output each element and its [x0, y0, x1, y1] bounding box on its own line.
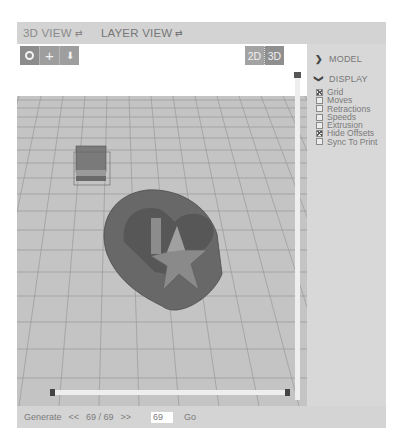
move-slider-end-handle[interactable]: [285, 389, 290, 396]
3d-button[interactable]: 3D: [264, 46, 284, 65]
layer-number-input[interactable]: [151, 412, 173, 423]
view-tabbar: 3D VIEW ⇄ LAYER VIEW ⇄: [17, 22, 386, 44]
zoom-down-icon: ⬇: [66, 50, 74, 61]
2d-button[interactable]: 2D: [245, 46, 264, 65]
layer-navigation-bar: Generate << 69 / 69 >> Go: [17, 406, 386, 428]
swap-icon: ⇄: [75, 28, 83, 38]
tab-label: LAYER VIEW: [101, 27, 172, 39]
layer-counter: 69 / 69: [86, 412, 114, 422]
rotate-tool-button[interactable]: [20, 46, 40, 65]
checkbox-icon[interactable]: [316, 105, 323, 112]
layer-slider-handle[interactable]: [294, 72, 301, 78]
option-label: Sync To Print: [327, 138, 377, 146]
heart-star-model: [104, 190, 222, 310]
tab-label: 3D VIEW: [23, 27, 72, 39]
dimension-toggle: 2D 3D: [245, 46, 284, 65]
pan-tool-button[interactable]: +: [40, 46, 60, 65]
checkbox-checked-icon[interactable]: [316, 89, 323, 96]
small-cube-model: [74, 146, 110, 185]
checkbox-icon[interactable]: [316, 122, 323, 129]
display-section-toggle[interactable]: ❯ DISPLAY: [307, 74, 386, 84]
layer-viewer-app: 3D VIEW ⇄ LAYER VIEW ⇄: [17, 22, 386, 428]
chevron-down-icon: ❯: [314, 75, 324, 83]
option-sync-to-print[interactable]: Sync To Print: [316, 138, 386, 146]
section-label: MODEL: [329, 54, 362, 64]
settings-sidebar: ❯ MODEL ❯ DISPLAY Grid Moves Retractions…: [307, 44, 386, 406]
zoom-tool-button[interactable]: ⬇: [60, 46, 79, 65]
checkbox-checked-icon[interactable]: [316, 130, 323, 137]
go-button[interactable]: Go: [184, 412, 196, 422]
generate-button[interactable]: Generate: [24, 412, 62, 422]
previous-layer-button[interactable]: <<: [69, 412, 80, 422]
checkbox-icon[interactable]: [316, 138, 323, 145]
chevron-right-icon: ❯: [315, 54, 323, 64]
tab-3d-view[interactable]: 3D VIEW ⇄: [23, 27, 83, 39]
display-options: Grid Moves Retractions Speeds Extrusion …: [307, 88, 386, 146]
move-icon: +: [45, 48, 54, 63]
move-slider-start-handle[interactable]: [50, 389, 55, 396]
section-label: DISPLAY: [329, 74, 368, 84]
move-slider-track[interactable]: [53, 390, 289, 395]
checkbox-icon[interactable]: [316, 97, 323, 104]
camera-toolbar: + ⬇: [20, 46, 79, 65]
layer-slider-track[interactable]: [295, 74, 300, 400]
next-layer-button[interactable]: >>: [121, 412, 132, 422]
swap-icon: ⇄: [175, 28, 183, 38]
tab-layer-view[interactable]: LAYER VIEW ⇄: [101, 27, 184, 39]
3d-viewport[interactable]: + ⬇ 2D 3D: [17, 44, 307, 406]
rotate-icon: [25, 51, 34, 60]
scene-render: [17, 44, 307, 406]
checkbox-icon[interactable]: [316, 114, 323, 121]
model-section-toggle[interactable]: ❯ MODEL: [307, 54, 386, 64]
